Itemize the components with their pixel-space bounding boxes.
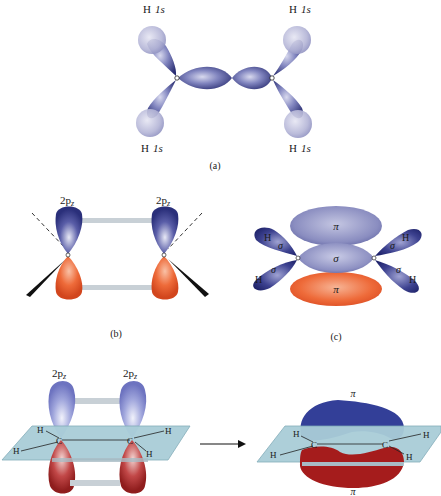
h-label-e-ur: H bbox=[423, 430, 430, 440]
panel-b-unhybridized-p-orbitals: 2pz 2pz (b) bbox=[26, 194, 209, 340]
h-label-e-ll: H bbox=[270, 450, 277, 460]
ch-bond-lower-right bbox=[273, 80, 312, 138]
carbon-nucleus-c-left bbox=[296, 256, 300, 260]
h-label-c-ur: H bbox=[402, 232, 409, 243]
panel-d-p-orbitals-on-plane: C C H H H H 2pz 2pz bbox=[2, 367, 190, 494]
caption-a: (a) bbox=[209, 160, 220, 172]
pi-overlap-bar-top bbox=[76, 218, 158, 223]
h1s-label-bottom-left: H1s bbox=[141, 142, 163, 154]
h1s-label-bottom-right: H1s bbox=[289, 142, 311, 154]
h-label-c-lr: H bbox=[409, 274, 416, 285]
c-label-d-left: C bbox=[56, 436, 62, 446]
2pz-label-left: 2pz bbox=[60, 194, 75, 208]
carbon-nucleus-c-right bbox=[372, 256, 376, 260]
ethylene-bonding-diagram: H1s H1s H1s H1s (a) 2pz 2pz (b) bbox=[0, 0, 441, 496]
2pz-label-right: 2pz bbox=[156, 194, 171, 208]
cc-sigma-bond bbox=[178, 67, 272, 90]
c-label-d-right: C bbox=[127, 436, 133, 446]
2pz-label-d-left: 2pz bbox=[52, 367, 67, 381]
molecular-plane-d bbox=[2, 426, 190, 460]
arrow-head-icon bbox=[238, 440, 246, 448]
h-label-d-ul: H bbox=[37, 425, 44, 435]
pi-label-bottom: π bbox=[333, 283, 339, 295]
sigma-ch-upper-left bbox=[254, 228, 297, 256]
h-label-d-ur: H bbox=[165, 426, 172, 436]
pi-overlap-bar-d-top bbox=[70, 398, 120, 404]
pi-overlap-bar-d-bottom bbox=[70, 480, 120, 486]
panel-a-sp2-sigma-framework: H1s H1s H1s H1s (a) bbox=[136, 3, 312, 172]
panel-e-pi-bond-formed: C C H H H H π π bbox=[257, 388, 441, 496]
pi-overlap-bar-d-mid bbox=[52, 458, 148, 462]
pi-label-e-top: π bbox=[350, 388, 356, 399]
ch-bond-lower-left bbox=[136, 80, 176, 137]
carbon-nucleus-left bbox=[175, 76, 179, 80]
p-orbital-left bbox=[56, 207, 83, 300]
2pz-label-d-right: 2pz bbox=[123, 367, 138, 381]
pi-label-top: π bbox=[333, 220, 339, 232]
reaction-arrow bbox=[200, 440, 246, 448]
p-orbital-right bbox=[152, 207, 179, 300]
c-label-e-left: C bbox=[311, 440, 317, 450]
carbon-nucleus-right bbox=[270, 76, 274, 80]
h-label-d-ll: H bbox=[13, 446, 20, 456]
caption-b: (b) bbox=[110, 328, 122, 340]
panel-c-sigma-pi-bonds: π π σ σ σ σ σ H H H H (c) bbox=[253, 206, 422, 343]
ch-bond-upper-right bbox=[273, 26, 311, 76]
pi-overlap-bar-bottom bbox=[76, 285, 158, 290]
h-label-c-ll: H bbox=[255, 274, 262, 285]
ch-bond-upper-left bbox=[138, 26, 176, 76]
sigma-label-center: σ bbox=[333, 252, 339, 264]
sigma-ch-upper-right bbox=[375, 229, 422, 256]
h1s-label-top-right: H1s bbox=[289, 3, 311, 15]
h-label-c-ul: H bbox=[264, 232, 271, 243]
c-label-e-right: C bbox=[382, 440, 388, 450]
h1s-label-top-left: H1s bbox=[143, 3, 165, 15]
h-label-d-lr: H bbox=[146, 449, 153, 459]
pi-bond-plane-strip bbox=[302, 462, 404, 466]
h-label-e-lr: H bbox=[406, 452, 413, 462]
h-label-e-ul: H bbox=[293, 429, 300, 439]
caption-c: (c) bbox=[330, 331, 341, 343]
